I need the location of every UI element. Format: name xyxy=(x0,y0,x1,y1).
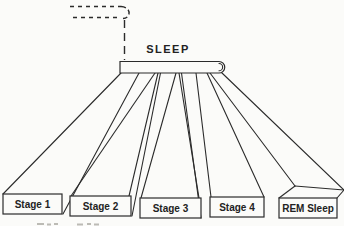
stage4-label: Stage 4 xyxy=(219,202,255,213)
fan-line-rem-right xyxy=(222,73,344,190)
fan-line-rem-left xyxy=(210,73,295,186)
fan-line-stage1-left xyxy=(3,73,121,194)
rem-top-face-back-edge xyxy=(295,186,344,190)
sleep-bar-body xyxy=(120,62,225,74)
fan-line-stage2-right-top xyxy=(129,73,158,196)
stage1-label: Stage 1 xyxy=(15,199,51,210)
stage2-label: Stage 2 xyxy=(83,201,119,212)
fan-line-stage3-left xyxy=(141,73,176,198)
stage3-label: Stage 3 xyxy=(153,203,189,214)
fan-line-stage2-left xyxy=(71,73,155,196)
rem-top-face-right-edge xyxy=(337,190,344,198)
dashed-entry-line xyxy=(70,7,129,61)
sleep-bar xyxy=(120,62,225,74)
rem-label: REM Sleep xyxy=(282,203,334,214)
sleep-stages-diagram: Stage 1 Stage 2 Stage 3 Stage 4 REM Slee… xyxy=(0,0,344,226)
fan-line-stage4-left xyxy=(196,73,211,197)
cropped-caption-fragment xyxy=(37,224,99,225)
rem-top-face-left-edge xyxy=(279,186,295,198)
diagram-canvas: Stage 1 Stage 2 Stage 3 Stage 4 REM Slee… xyxy=(0,0,344,226)
fan-line-stage4-right xyxy=(207,73,264,197)
fan-line-stage3-right-bottom xyxy=(182,73,202,218)
dashed-hook-curve xyxy=(121,7,129,19)
sleep-bar-title: SLEEP xyxy=(146,43,190,55)
